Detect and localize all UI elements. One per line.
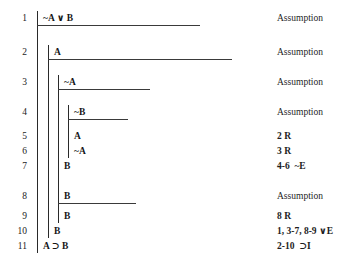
scope-bar-depth-0 [37,11,38,253]
line-number: 3 [7,78,27,88]
scope-bar-depth-2 [58,75,59,223]
line-number: 9 [7,212,27,222]
justification: 2-10 ⊃I [277,242,311,252]
formula: A [74,132,81,142]
line-number: 2 [7,48,27,58]
formula: B [54,227,60,237]
formula: A ⊃ B [43,242,68,252]
justification: 3 R [277,147,291,157]
formula: ~A [64,78,76,88]
formula: B [64,212,70,222]
scope-bar-depth-3 [68,105,69,158]
line-number: 6 [7,147,27,157]
line-number: 8 [7,192,27,202]
justification: Assumption [277,192,323,202]
formula: ~A ∨ B [43,14,73,24]
formula: A [54,48,61,58]
proof-figure: 1~A ∨ BAssumption2AAssumption3~AAssumpti… [0,0,356,261]
justification: Assumption [277,48,323,58]
assumption-rule [68,119,128,120]
line-number: 1 [7,14,27,24]
assumption-rule [37,25,200,26]
justification: Assumption [277,14,323,24]
scope-bar-depth-1 [48,45,49,238]
formula: B [64,162,70,172]
formula: ~A [74,147,86,157]
formula: ~B [74,108,85,118]
justification: 4-6 ~E [277,162,306,172]
justification: 8 R [277,212,291,222]
justification: 2 R [277,132,291,142]
formula: B [64,192,70,202]
line-number: 4 [7,108,27,118]
assumption-rule [58,89,150,90]
justification: Assumption [277,78,323,88]
justification: 1, 3-7, 8-9 ∨E [277,227,333,237]
line-number: 5 [7,132,27,142]
line-number: 7 [7,162,27,172]
assumption-rule [58,203,136,204]
line-number: 10 [7,227,27,237]
assumption-rule [48,59,232,60]
justification: Assumption [277,108,323,118]
line-number: 11 [7,242,27,252]
